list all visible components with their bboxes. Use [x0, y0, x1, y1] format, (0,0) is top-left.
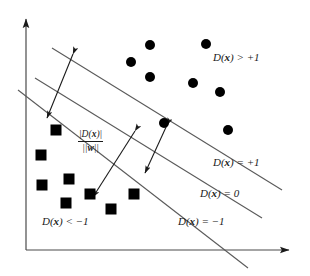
label-line-zero: D(x) = 0	[200, 188, 239, 199]
square-marker	[61, 198, 72, 209]
label-region-positive: D(x) > +1	[213, 52, 260, 63]
circle-marker	[188, 78, 198, 88]
label-line-plus-one: D(x) = +1	[213, 157, 260, 168]
circle-marker	[145, 40, 155, 50]
circle-marker	[159, 118, 169, 128]
fraction-bar	[78, 141, 103, 142]
square-marker	[129, 189, 140, 200]
support-vector-margin-arrow	[145, 125, 167, 173]
label-region-negative: D(x) < −1	[42, 216, 89, 227]
circle-marker	[223, 125, 233, 135]
margin-width-arrow	[47, 54, 73, 118]
square-marker	[37, 180, 48, 191]
diagram-canvas	[0, 0, 310, 276]
square-marker	[51, 125, 62, 136]
square-marker	[106, 204, 117, 215]
circle-marker	[215, 87, 225, 97]
circle-marker	[126, 57, 136, 67]
annotation-numerator: |D(x)|	[78, 129, 103, 140]
label-line-minus-one: D(x) = −1	[178, 216, 225, 227]
square-marker	[85, 189, 96, 200]
square-marker	[36, 150, 47, 161]
circle-marker	[201, 39, 211, 49]
svm-margin-diagram: D(x) > +1 D(x) = +1 D(x) = 0 D(x) = −1 D…	[0, 0, 310, 276]
circle-marker	[145, 72, 155, 82]
decision-line-lower-margin	[18, 90, 248, 268]
square-marker	[64, 174, 75, 185]
margin-distance-annotation: |D(x)| ||w||	[78, 129, 103, 153]
annotation-denominator: ||w||	[78, 143, 103, 154]
